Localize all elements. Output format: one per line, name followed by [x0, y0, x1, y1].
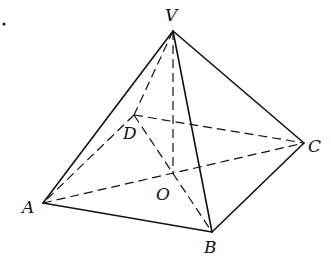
- edge-ab: [43, 203, 212, 232]
- stray-dot: [3, 23, 6, 26]
- label-c: C: [308, 136, 321, 156]
- hidden-edge-dc: [134, 115, 304, 143]
- label-a: A: [20, 197, 34, 217]
- pyramid-diagram: V A B C D O: [0, 0, 331, 261]
- edge-vc: [173, 31, 304, 143]
- label-o: O: [156, 184, 170, 204]
- label-d: D: [122, 123, 137, 143]
- hidden-edge-da: [43, 115, 134, 203]
- label-v: V: [165, 5, 179, 25]
- label-b: B: [203, 237, 217, 257]
- hidden-edges: [43, 31, 304, 232]
- edge-bc: [212, 143, 304, 232]
- hidden-edge-vd: [134, 31, 173, 115]
- vertex-labels: V A B C D O: [20, 5, 321, 257]
